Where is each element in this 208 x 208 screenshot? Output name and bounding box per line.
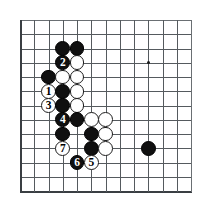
- grid-line-vertical-8: [134, 20, 135, 192]
- stone-white-c3r4[interactable]: [55, 70, 70, 85]
- stone-black-c9r9[interactable]: [141, 141, 156, 156]
- stone-white-c6r8[interactable]: [98, 127, 113, 142]
- stone-black-c2r4[interactable]: [41, 70, 56, 85]
- move-number-label-7: 7: [55, 141, 70, 156]
- grid-line-vertical-0: [20, 20, 22, 192]
- stone-black-c4r7[interactable]: [70, 112, 85, 127]
- move-number-label-5: 5: [84, 155, 99, 170]
- stone-white-c4r6[interactable]: [70, 98, 85, 113]
- stone-white-c4r5[interactable]: [70, 84, 85, 99]
- stone-white-c6r9[interactable]: [98, 141, 113, 156]
- grid-line-vertical-12: [191, 20, 192, 192]
- go-board[interactable]: 2134765: [0, 0, 208, 208]
- grid-line-vertical-6: [106, 20, 107, 192]
- grid-line-vertical-1: [34, 20, 35, 192]
- stone-black-c3r2[interactable]: [55, 41, 70, 56]
- stone-black-c4r2[interactable]: [70, 41, 85, 56]
- move-number-label-2: 2: [55, 55, 70, 70]
- go-diagram-container: 2134765: [0, 0, 208, 208]
- stone-white-c6r7[interactable]: [98, 112, 113, 127]
- grid-line-vertical-7: [120, 20, 121, 192]
- stone-black-c3r8[interactable]: [55, 127, 70, 142]
- star-point-upper-right: [147, 61, 150, 64]
- move-number-label-6: 6: [70, 155, 85, 170]
- grid-line-vertical-11: [177, 20, 178, 192]
- stone-black-c3r5[interactable]: [55, 84, 70, 99]
- stone-black-c5r8[interactable]: [84, 127, 99, 142]
- move-number-label-4: 4: [55, 112, 70, 127]
- move-number-label-3: 3: [41, 98, 56, 113]
- stone-white-c4r4[interactable]: [70, 70, 85, 85]
- grid-line-vertical-9: [148, 20, 149, 192]
- stone-white-c5r7[interactable]: [84, 112, 99, 127]
- move-number-label-1: 1: [41, 84, 56, 99]
- grid-line-vertical-10: [163, 20, 164, 192]
- stone-black-c3r6[interactable]: [55, 98, 70, 113]
- stone-white-c4r3[interactable]: [70, 55, 85, 70]
- stone-black-c5r9[interactable]: [84, 141, 99, 156]
